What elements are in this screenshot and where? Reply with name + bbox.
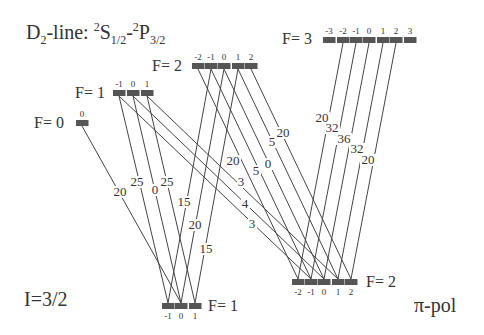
m-label: -1 — [307, 287, 315, 297]
sublevel-bar — [141, 90, 154, 96]
sublevel-bar — [363, 37, 376, 43]
m-label: 0 — [222, 52, 227, 62]
transition-coefficient: 20 — [189, 217, 202, 232]
transition-coefficient: 20 — [227, 153, 240, 168]
sublevel-bar — [189, 303, 202, 309]
transition-coefficient: 3 — [249, 216, 256, 231]
transition-coefficient: 5 — [269, 134, 276, 149]
m-label: 2 — [249, 52, 254, 62]
transition-coefficient: 4 — [242, 196, 249, 211]
sublevel-bars — [76, 37, 417, 309]
transition-line — [181, 69, 224, 303]
transition-coefficient: 20 — [277, 125, 290, 140]
level-diagram: 0-101-2-1012-3-2-10123-101-2-1012 202502… — [0, 0, 484, 335]
transition-line — [298, 43, 343, 279]
m-label: 1 — [236, 52, 241, 62]
m-label: 2 — [349, 287, 354, 297]
sublevel-bar — [232, 63, 245, 69]
m-label: 0 — [367, 26, 372, 36]
transition-coefficient: 15 — [200, 241, 213, 256]
transition-coefficient: 36 — [338, 131, 352, 146]
transition-line — [82, 126, 181, 303]
sublevel-bar — [76, 120, 89, 126]
m-label: 1 — [145, 79, 150, 89]
sublevel-bar — [192, 63, 205, 69]
sublevel-bar — [377, 37, 390, 43]
sublevel-bar — [162, 303, 175, 309]
m-label: -3 — [325, 26, 333, 36]
m-label: 1 — [336, 287, 341, 297]
transition-line — [311, 43, 356, 279]
sublevel-bar — [350, 37, 363, 43]
sublevel-bar — [175, 303, 188, 309]
m-label: 3 — [408, 26, 413, 36]
m-label: 0 — [131, 79, 136, 89]
sublevel-bar — [323, 37, 336, 43]
m-label: -1 — [115, 79, 123, 89]
transition-coefficient: 0 — [152, 182, 159, 197]
m-label: -2 — [194, 52, 202, 62]
transition-lines — [82, 43, 396, 303]
sublevel-bar — [337, 37, 350, 43]
m-label: -1 — [164, 311, 172, 321]
m-label: -2 — [339, 26, 347, 36]
sublevel-bar — [292, 279, 305, 285]
transition-coefficient: 15 — [178, 194, 191, 209]
sublevel-bar — [345, 279, 358, 285]
transition-line — [119, 96, 168, 303]
sublevel-bar — [404, 37, 417, 43]
sublevel-bar — [305, 279, 318, 285]
m-label: 1 — [193, 311, 198, 321]
m-label: 1 — [381, 26, 386, 36]
transition-coefficient: 20 — [362, 152, 375, 167]
transition-line — [251, 69, 351, 279]
transition-coefficient: 0 — [265, 156, 272, 171]
m-label: -1 — [207, 52, 215, 62]
m-label: 2 — [394, 26, 399, 36]
sublevel-bar — [332, 279, 345, 285]
m-label: 0 — [179, 311, 184, 321]
sublevel-bar — [245, 63, 258, 69]
transition-line — [195, 69, 238, 303]
sublevel-bar — [205, 63, 218, 69]
sublevel-bar — [127, 90, 140, 96]
transition-coefficient: 3 — [238, 174, 245, 189]
transition-coefficient: 25 — [131, 174, 144, 189]
sublevel-bar — [113, 90, 126, 96]
transition-coefficient: 20 — [114, 184, 127, 199]
transition-coefficient: 5 — [253, 163, 260, 178]
m-label: 0 — [322, 287, 327, 297]
sublevel-bar — [318, 279, 331, 285]
m-label: -2 — [294, 287, 302, 297]
transition-line — [119, 96, 311, 279]
sublevel-bar — [390, 37, 403, 43]
m-label: -1 — [352, 26, 360, 36]
sublevel-bar — [218, 63, 231, 69]
transition-coefficient: 25 — [161, 174, 174, 189]
m-label: 0 — [80, 109, 85, 119]
